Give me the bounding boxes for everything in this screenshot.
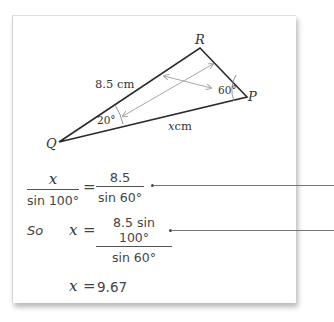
so-label: So xyxy=(27,223,43,238)
angle-label-p: 60° xyxy=(218,84,237,96)
fraction-denominator: sin 60° xyxy=(96,247,172,265)
leader-line-2 xyxy=(171,230,334,231)
side-label-qp: xcm xyxy=(168,119,192,133)
variable-x: x xyxy=(69,277,77,295)
angle-label-q: 20° xyxy=(97,114,116,126)
vertex-label-p: P xyxy=(248,89,257,104)
vertex-label-r: R xyxy=(195,32,205,47)
fraction-numerator: 8.5 xyxy=(96,170,144,187)
equals-sign: = xyxy=(83,178,96,196)
fraction-numerator: x xyxy=(27,170,79,190)
angle-arc-q xyxy=(115,105,123,124)
result-value: 9.67 xyxy=(97,279,127,295)
side-label-qp-unit: cm xyxy=(175,119,192,133)
fraction-8.5-over-sin60: 8.5 sin 60° xyxy=(96,170,144,205)
fraction-8.5sin100-over-sin60: 8.5 sin 100° sin 60° xyxy=(96,215,172,265)
leader-line-1 xyxy=(153,185,334,186)
arrow-side-opposite-q xyxy=(164,76,211,88)
vertex-label-q: Q xyxy=(46,136,57,151)
fraction-numerator: 8.5 sin 100° xyxy=(96,215,172,247)
fraction-denominator: sin 60° xyxy=(96,187,144,205)
fraction-x-over-sin100: x sin 100° xyxy=(27,170,79,208)
equals-sign: = xyxy=(83,277,96,295)
side-label-qr: 8.5 cm xyxy=(95,77,134,91)
variable-x: x xyxy=(69,221,77,239)
equals-sign: = xyxy=(83,221,96,239)
fraction-denominator: sin 100° xyxy=(27,190,79,208)
